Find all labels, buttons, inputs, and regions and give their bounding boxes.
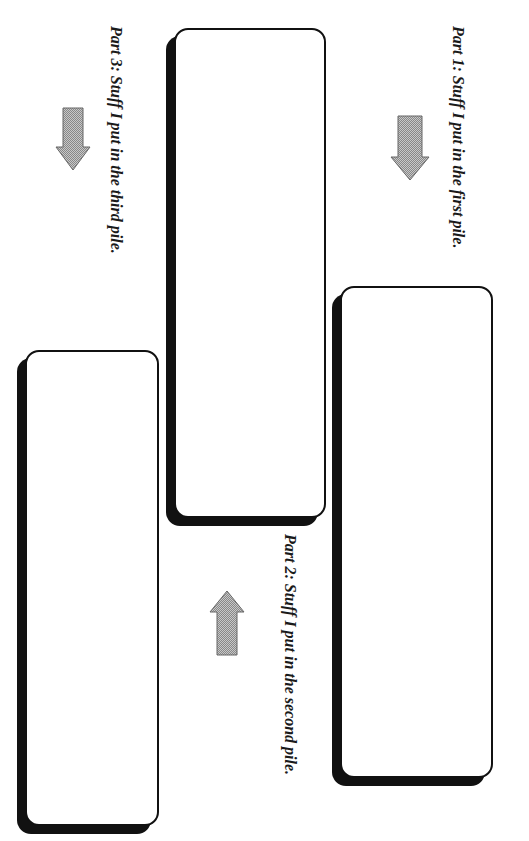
- down-arrow-icon: [390, 115, 430, 182]
- part1-label: Part 1: Stuff I put in the first pile.: [450, 26, 466, 248]
- part3-label: Part 3: Stuff I put in the third pile.: [108, 26, 124, 254]
- part2-label: Part 2: Stuff I put in the second pile.: [282, 534, 298, 775]
- first-pile-box[interactable]: [340, 286, 493, 778]
- second-pile-box[interactable]: [174, 28, 326, 518]
- up-arrow-icon: [209, 590, 245, 657]
- third-pile-box[interactable]: [25, 350, 159, 826]
- down-arrow-icon: [55, 107, 91, 172]
